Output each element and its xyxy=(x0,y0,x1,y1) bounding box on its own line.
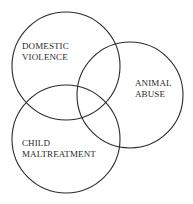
label-domestic-line1: DOMESTIC xyxy=(22,41,69,51)
circle-domestic-violence xyxy=(12,12,120,120)
label-child-line2: MALTREATMENT xyxy=(22,149,96,159)
circle-animal-abuse xyxy=(77,42,183,148)
label-animal-line1: ANIMAL xyxy=(135,78,172,88)
label-domestic-line2: VIOLENCE xyxy=(22,52,68,62)
label-animal-line2: ABUSE xyxy=(135,89,165,99)
label-child-line1: CHILD xyxy=(22,138,50,148)
venn-diagram: DOMESTIC VIOLENCE ANIMAL ABUSE CHILD MAL… xyxy=(0,0,193,204)
